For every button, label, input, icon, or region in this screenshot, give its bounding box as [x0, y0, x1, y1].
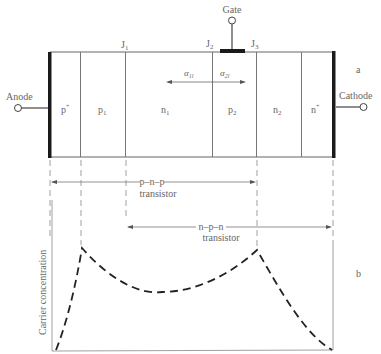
- pnp-arrowhead-left-icon: [51, 180, 57, 184]
- region-p1-label: p1: [98, 104, 107, 117]
- region-nplus-label: n+: [311, 103, 320, 115]
- pnp-arrowhead-right-icon: [250, 180, 256, 184]
- npn-arrowhead-right-icon: [326, 225, 332, 229]
- panel-a-label: a: [356, 64, 361, 75]
- carrier-concentration-curve: [56, 248, 332, 350]
- npn-label: n–p–n: [199, 221, 224, 232]
- projection-lines: [50, 160, 333, 248]
- thyristor-diagram: Gate Anode Cathode J1 J2 J3 p+ p1 n1 p2 …: [0, 0, 381, 354]
- pnp-label: p–n–p: [140, 176, 165, 187]
- npn-transistor-span: n–p–n transistor: [127, 221, 332, 243]
- gate-label: Gate: [223, 4, 242, 15]
- alpha1-label: α1l: [184, 68, 194, 79]
- anode-label: Anode: [6, 91, 33, 102]
- anode-electrode: [48, 52, 52, 158]
- npn-arrowhead-left-icon: [127, 225, 133, 229]
- anode-terminal-icon: [15, 105, 22, 112]
- junction-j1-label: J1: [121, 39, 129, 52]
- plot-y-label: Carrier concentration: [37, 250, 48, 335]
- cathode-electrode: [332, 51, 336, 158]
- alpha2-label: α2l: [220, 68, 230, 79]
- pnp-transistor-label: transistor: [139, 188, 177, 199]
- labels: Gate Anode Cathode J1 J2 J3 p+ p1 n1 p2 …: [6, 4, 373, 279]
- junction-j3-label: J3: [251, 38, 259, 51]
- plot-x-axis: [52, 350, 333, 351]
- gate-electrode: [220, 49, 245, 53]
- alpha1-arrowhead-icon: [166, 80, 172, 84]
- junction-j2-label: J2: [206, 38, 214, 51]
- alpha2-arrowhead-icon: [240, 80, 246, 84]
- region-p2-label: p2: [228, 104, 237, 117]
- device-structure: [15, 17, 368, 158]
- region-pplus-label: p+: [61, 103, 70, 115]
- cathode-label: Cathode: [339, 90, 373, 101]
- pnp-transistor-span: p–n–p transistor: [51, 176, 256, 199]
- npn-transistor-label: transistor: [202, 232, 240, 243]
- panel-b-label: b: [356, 268, 361, 279]
- region-n1-label: n1: [161, 104, 170, 117]
- gate-terminal-icon: [229, 17, 236, 24]
- cathode-terminal-icon: [360, 104, 367, 111]
- region-n2-label: n2: [273, 104, 282, 117]
